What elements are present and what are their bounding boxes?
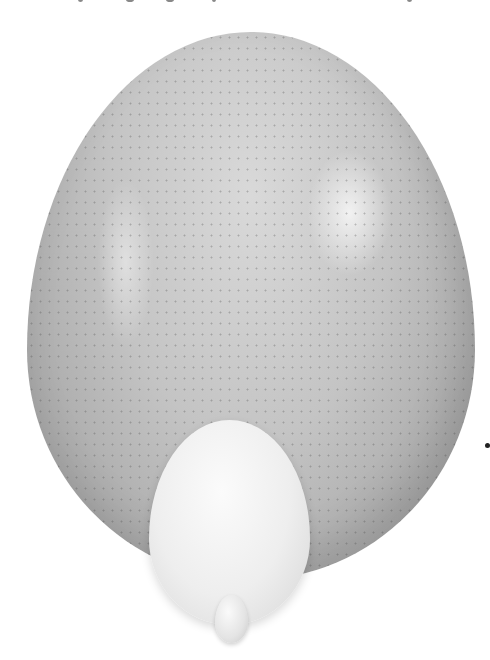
tiny-egg [215, 595, 248, 643]
text-fragment [166, 0, 174, 2]
text-fragment [407, 0, 412, 2]
text-fragment [78, 0, 83, 2]
text-fragment [212, 0, 216, 2]
egg-size-photo [0, 0, 490, 660]
stray-dot-mark [485, 443, 490, 448]
text-fragment [126, 0, 134, 2]
cropped-text-fragments [0, 0, 490, 5]
